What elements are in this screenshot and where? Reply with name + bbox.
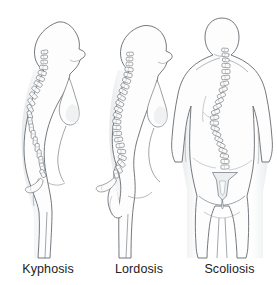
spinal-conditions-illustration: [0, 0, 277, 285]
label-scoliosis: Scoliosis: [182, 262, 277, 277]
label-lordosis: Lordosis: [96, 262, 182, 277]
figure-labels: Kyphosis Lordosis Scoliosis: [0, 262, 277, 285]
label-kyphosis: Kyphosis: [0, 262, 96, 277]
